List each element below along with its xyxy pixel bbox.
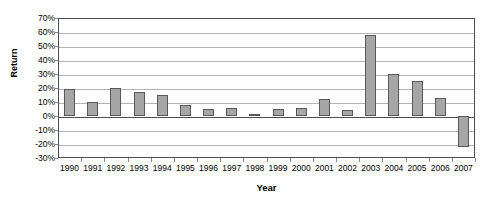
x-axis-tick xyxy=(151,158,152,162)
x-axis-tick-label: 1998 xyxy=(243,163,266,173)
y-axis-tick xyxy=(54,60,58,61)
x-axis-tick-label: 1991 xyxy=(81,163,104,173)
y-axis-tick-label: 50% xyxy=(3,42,55,51)
y-axis-tick-label: 70% xyxy=(3,14,55,23)
bar xyxy=(342,110,353,116)
bar xyxy=(273,109,284,116)
y-axis-tick xyxy=(54,158,58,159)
x-axis-tick-label: 1997 xyxy=(220,163,243,173)
bar xyxy=(203,109,214,116)
y-axis-tick xyxy=(54,88,58,89)
bar xyxy=(134,92,145,116)
bar xyxy=(110,88,121,116)
x-axis-tick-label: 1993 xyxy=(128,163,151,173)
bar xyxy=(64,89,75,116)
x-axis-tick xyxy=(128,158,129,162)
x-axis-tick xyxy=(452,158,453,162)
bar xyxy=(412,81,423,116)
x-axis-tick xyxy=(382,158,383,162)
x-axis-tick-label: 2007 xyxy=(452,163,475,173)
x-axis-tick-label: 2000 xyxy=(290,163,313,173)
x-axis-tick-label: 1990 xyxy=(58,163,81,173)
x-axis-tick-label: 1994 xyxy=(151,163,174,173)
x-axis-tick-label: 2003 xyxy=(359,163,382,173)
return-by-year-bar-chart: Return 70%60%50%40%30%20%10%0%-10%-20%-3… xyxy=(0,0,491,206)
y-axis-tick-label: 20% xyxy=(3,84,55,93)
x-axis-tick xyxy=(336,158,337,162)
bar xyxy=(180,105,191,116)
y-axis-tick-label: -10% xyxy=(3,126,55,135)
y-axis-tick xyxy=(54,116,58,117)
bar xyxy=(458,116,469,147)
y-axis-tick-label: 60% xyxy=(3,28,55,37)
bar xyxy=(388,74,399,116)
bar xyxy=(157,95,168,116)
y-axis-tick-label: 0% xyxy=(3,112,55,121)
y-axis-tick xyxy=(54,74,58,75)
y-axis-tick-label: 40% xyxy=(3,56,55,65)
x-axis-tick xyxy=(81,158,82,162)
y-axis-tick-label: -20% xyxy=(3,140,55,149)
x-axis-tick-label: 2005 xyxy=(406,163,429,173)
x-axis-tick xyxy=(267,158,268,162)
bar xyxy=(319,99,330,116)
y-axis-tick xyxy=(54,46,58,47)
y-axis-tick-label: 10% xyxy=(3,98,55,107)
x-axis-tick xyxy=(290,158,291,162)
bar xyxy=(249,114,260,116)
bar-series xyxy=(58,18,475,158)
x-axis-tick-label: 1996 xyxy=(197,163,220,173)
x-axis-tick-label: 1999 xyxy=(267,163,290,173)
y-axis-tick-labels: 70%60%50%40%30%20%10%0%-10%-20%-30% xyxy=(0,18,55,158)
y-axis-tick xyxy=(54,32,58,33)
y-axis-tick xyxy=(54,18,58,19)
x-axis-tick xyxy=(429,158,430,162)
y-axis-tick xyxy=(54,102,58,103)
x-axis-tick xyxy=(313,158,314,162)
y-axis-tick-label: -30% xyxy=(3,154,55,163)
x-axis-tick xyxy=(174,158,175,162)
bar xyxy=(296,108,307,116)
y-axis-tick-label: 30% xyxy=(3,70,55,79)
x-axis-tick xyxy=(475,158,476,162)
x-axis-tick xyxy=(359,158,360,162)
x-axis-tick xyxy=(406,158,407,162)
x-axis-tick-label: 2006 xyxy=(429,163,452,173)
x-axis-title: Year xyxy=(58,182,475,193)
x-axis-tick-label: 2001 xyxy=(313,163,336,173)
bar xyxy=(226,108,237,116)
x-axis-tick xyxy=(104,158,105,162)
x-axis-tick xyxy=(197,158,198,162)
x-axis-tick xyxy=(220,158,221,162)
x-axis-tick-label: 1995 xyxy=(174,163,197,173)
bar xyxy=(87,102,98,116)
x-axis-tick-label: 1992 xyxy=(104,163,127,173)
y-axis-tick xyxy=(54,144,58,145)
x-axis-tick-label: 2002 xyxy=(336,163,359,173)
bar xyxy=(435,98,446,116)
bar xyxy=(365,35,376,116)
y-axis-tick xyxy=(54,130,58,131)
x-axis-tick xyxy=(243,158,244,162)
x-axis-tick-label: 2004 xyxy=(382,163,405,173)
